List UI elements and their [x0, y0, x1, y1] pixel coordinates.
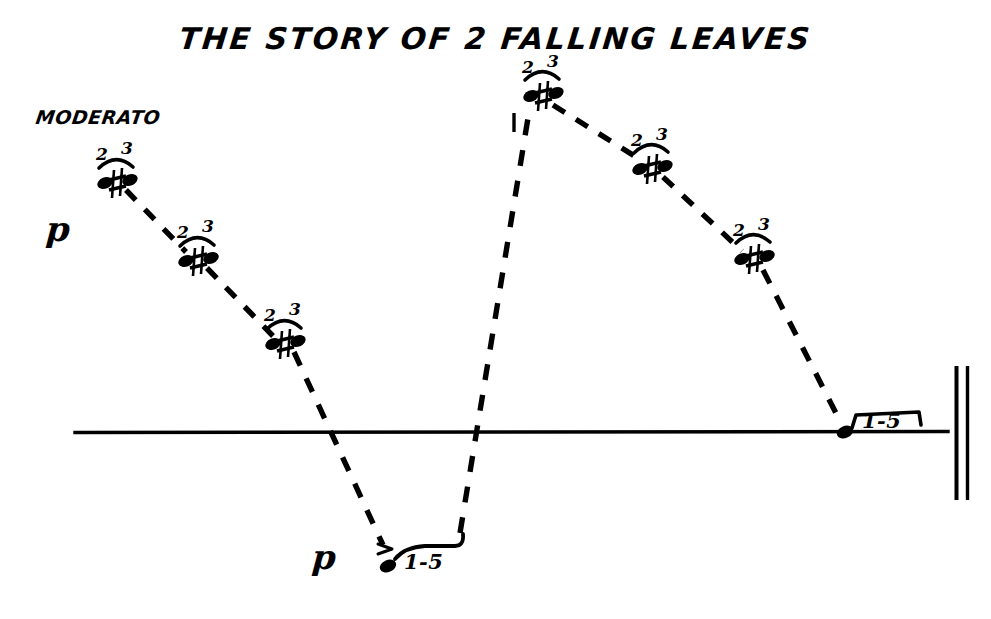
note-group-5 [514, 72, 566, 132]
dynamic-piano-bottom: p [311, 540, 337, 574]
span-label-bottom-note: 1-5 [404, 551, 443, 572]
staff-line [75, 432, 948, 433]
span-label-final-note: 1-5 [862, 410, 901, 431]
fingering-2-note-5: 2 [522, 59, 534, 76]
melody-dashed-contour [126, 105, 841, 545]
fingering-3-note-7: 3 [758, 216, 770, 233]
note-group-7 [732, 235, 776, 274]
fingering-3-note-3: 3 [289, 301, 301, 318]
fingering-2-note-3: 2 [264, 307, 276, 324]
fingering-3-note-2: 3 [202, 218, 214, 235]
music-score-page: THE STORY OF 2 FALLING LEAVES MODERATO p… [0, 0, 991, 619]
fingering-2-note-6: 2 [631, 132, 643, 149]
fingering-3-note-6: 3 [656, 126, 668, 143]
fingering-3-note-1: 3 [121, 140, 133, 157]
note-group-1 [95, 160, 139, 198]
fingering-2-note-1: 2 [96, 146, 108, 163]
note-group-3 [263, 321, 307, 359]
tempo-marking: MODERATO [35, 108, 162, 127]
note-group-2 [176, 238, 220, 276]
dynamic-piano-left: p [45, 212, 71, 246]
page-title: THE STORY OF 2 FALLING LEAVES [0, 24, 991, 54]
final-barline [957, 366, 968, 500]
fingering-3-note-5: 3 [547, 53, 559, 70]
score-vector-layer [0, 0, 991, 619]
fingering-2-note-7: 2 [733, 222, 745, 239]
fingering-2-note-2: 2 [177, 224, 189, 241]
